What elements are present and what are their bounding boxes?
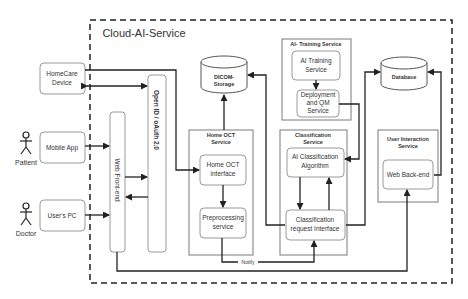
homecare-line-2: Device [52, 79, 72, 86]
architecture-diagram: Cloud-AI-Service Patient Doctor HomeCare… [0, 0, 468, 299]
homecare-line-1: HomeCare [46, 70, 78, 77]
users-pc-label: User's PC [47, 212, 76, 219]
request-2: request Interface [291, 225, 340, 233]
ai-training-service-group: AI- Training Service AI Training Service… [282, 39, 351, 120]
home-oct-interface-2: interface [211, 170, 236, 177]
person-icon [20, 132, 32, 154]
person-icon [20, 203, 32, 225]
openid-label: Open ID / oAuth 2.0 [152, 90, 160, 150]
request-1: Classification [296, 216, 335, 223]
mobile-app-label: Mobile App [46, 144, 79, 152]
doctor-actor: Doctor [16, 203, 37, 237]
dicom-line-1: DICOM- [214, 74, 234, 80]
home-oct-service-group: Home OCT Service Home OCT interface Prep… [189, 130, 253, 255]
algorithm-2: Algorithm [301, 162, 328, 170]
user-interaction-title-2: Service [398, 143, 418, 149]
dicom-storage: DICOM- Storage [201, 56, 247, 93]
deployment-1: Deployment [301, 91, 336, 99]
homecare-device-box: HomeCare Device [40, 63, 85, 94]
users-pc-box: User's PC [40, 200, 85, 231]
database-label: Database [392, 74, 416, 80]
openid-bar: Open ID / oAuth 2.0 [148, 75, 166, 252]
ai-training-title: AI- Training Service [290, 41, 341, 47]
edge-request-to-dicom [248, 75, 285, 225]
preprocessing-2: service [213, 223, 234, 230]
database-storage: Database [381, 57, 427, 90]
classification-service-group: Classification Service AI Classification… [280, 130, 347, 255]
deployment-2: and QM [306, 99, 329, 107]
cloud-title: Cloud-AI-Service [102, 27, 185, 39]
ai-training-2: Service [305, 66, 327, 73]
classification-title-1: Classification [295, 132, 331, 138]
preprocessing-1: Preprocessing [202, 214, 244, 222]
doctor-label: Doctor [16, 230, 37, 237]
dicom-line-2: Storage [214, 81, 234, 87]
user-interaction-title-1: User Interaction [387, 136, 430, 142]
ai-training-1: AI Training [300, 57, 331, 65]
home-oct-interface-1: Home OCT [207, 161, 240, 168]
patient-actor: Patient [15, 132, 37, 166]
web-frontend-bar: Web Front-end [110, 112, 125, 252]
mobile-app-box: Mobile App [40, 132, 85, 163]
deployment-3: Service [307, 107, 329, 114]
home-oct-title-1: Home OCT [207, 132, 236, 138]
notify-label: Notify [242, 259, 255, 265]
web-backend-label: Web Back-end [387, 171, 430, 178]
user-interaction-service-group: User Interaction Service Web Back-end [378, 130, 438, 202]
home-oct-title-2: Service [211, 139, 231, 145]
patient-label: Patient [15, 159, 37, 166]
classification-title-2: Service [303, 139, 323, 145]
web-frontend-label: Web Front-end [114, 158, 121, 202]
algorithm-1: AI Classification [292, 153, 339, 160]
edge-homecare-to-home-oct [85, 70, 199, 170]
